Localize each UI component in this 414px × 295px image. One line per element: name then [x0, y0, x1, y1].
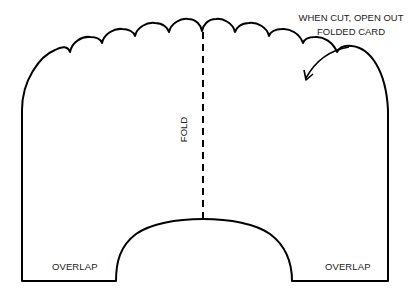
overlap-left-label: OVERLAP — [52, 261, 98, 272]
fold-label: FOLD — [178, 117, 189, 142]
overlap-right-label: OVERLAP — [325, 261, 371, 272]
instruction-line-1: WHEN CUT, OPEN OUT — [296, 11, 406, 25]
curved-arrow — [306, 47, 349, 78]
instruction-line-2: FOLDED CARD — [296, 25, 406, 39]
card-template-drawing — [0, 0, 414, 295]
card-outline — [22, 19, 388, 281]
instruction-text: WHEN CUT, OPEN OUT FOLDED CARD — [296, 11, 406, 39]
